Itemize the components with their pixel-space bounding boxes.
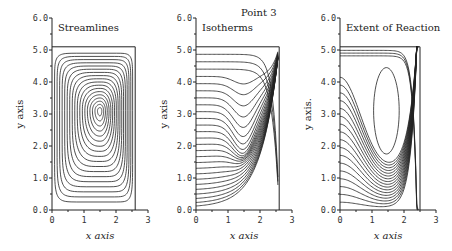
- x-tick-label: 1: [225, 215, 230, 225]
- y-tick-label: 2.0: [321, 141, 336, 151]
- y-tick-label: 3.0: [321, 109, 336, 119]
- x-tick-label: 2: [113, 215, 118, 225]
- extent-of-reaction-panel: 0.01.02.03.04.05.06.00123x axisy axis.Ex…: [302, 13, 441, 241]
- streamline: [87, 95, 109, 136]
- y-axis-label: y axis.: [302, 98, 313, 131]
- y-axis-label: y axis: [158, 100, 169, 130]
- y-tick-label: 0.0: [33, 205, 48, 215]
- streamlines-panel: 0.01.02.03.04.05.06.00123x axisy axisStr…: [14, 13, 151, 241]
- reaction-contour: [340, 53, 418, 210]
- streamline: [97, 108, 101, 116]
- figure: Point 3 0.01.02.03.04.05.06.00123x axisy…: [0, 0, 452, 251]
- contour-lines: [55, 53, 133, 202]
- contour-lines: [340, 47, 418, 210]
- y-tick-label: 1.0: [177, 173, 192, 183]
- x-axis-label: x axis: [230, 230, 259, 241]
- y-tick-label: 1.0: [33, 173, 48, 183]
- contour-lines: [196, 52, 278, 206]
- x-tick-label: 3: [433, 215, 438, 225]
- streamline: [95, 104, 104, 121]
- y-tick-label: 1.0: [321, 173, 336, 183]
- x-axis-label: x axis: [374, 230, 403, 241]
- y-tick-label: 6.0: [321, 13, 336, 23]
- panel-title: Streamlines: [58, 22, 119, 33]
- y-tick-label: 5.0: [33, 45, 48, 55]
- y-tick-label: 6.0: [177, 13, 192, 23]
- panel-title: Isotherms: [202, 22, 253, 33]
- y-tick-label: 3.0: [177, 109, 192, 119]
- y-tick-label: 5.0: [177, 45, 192, 55]
- y-tick-label: 2.0: [177, 141, 192, 151]
- y-axis-label: y axis: [14, 100, 25, 130]
- y-tick-label: 0.0: [321, 205, 336, 215]
- x-tick-label: 3: [289, 215, 294, 225]
- y-tick-label: 2.0: [33, 141, 48, 151]
- x-tick-label: 3: [145, 215, 150, 225]
- reaction-contour: [340, 50, 418, 210]
- reaction-contour-loop: [374, 68, 400, 154]
- x-tick-label: 0: [337, 215, 342, 225]
- y-tick-label: 4.0: [321, 77, 336, 87]
- figure-title: Point 3: [241, 7, 277, 18]
- x-tick-label: 0: [193, 215, 198, 225]
- x-tick-label: 2: [401, 215, 406, 225]
- x-tick-label: 1: [369, 215, 374, 225]
- y-tick-label: 5.0: [321, 45, 336, 55]
- y-tick-label: 6.0: [33, 13, 48, 23]
- x-axis-label: x axis: [86, 230, 115, 241]
- y-tick-label: 4.0: [177, 77, 192, 87]
- panel-title: Extent of Reaction: [346, 22, 441, 33]
- x-tick-label: 2: [257, 215, 262, 225]
- isotherm: [196, 56, 278, 156]
- isotherms-panel: 0.01.02.03.04.05.06.00123x axisy axisIso…: [158, 13, 295, 241]
- x-tick-label: 1: [81, 215, 86, 225]
- y-tick-label: 4.0: [33, 77, 48, 87]
- x-tick-label: 0: [49, 215, 54, 225]
- y-tick-label: 0.0: [177, 205, 192, 215]
- y-tick-label: 3.0: [33, 109, 48, 119]
